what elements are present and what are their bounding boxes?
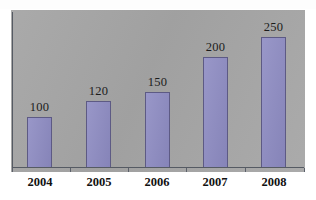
bar-value-label-2008: 250 — [256, 20, 291, 35]
bars-layer: 10020041202005150200620020072502008 — [0, 0, 316, 200]
x-axis-label-2004: 2004 — [22, 175, 58, 190]
bar-chart: 10020041202005150200620020072502008 — [0, 0, 316, 200]
bar-2008 — [261, 37, 286, 167]
bar-value-label-2006: 150 — [140, 75, 175, 90]
bar-value-label-2004: 100 — [22, 100, 57, 115]
x-axis-tick — [245, 168, 246, 172]
bar-value-label-2005: 120 — [81, 84, 116, 99]
x-axis-tick — [128, 168, 129, 172]
x-axis-tick — [70, 168, 71, 172]
x-axis-label-2007: 2007 — [197, 175, 233, 190]
bar-2007 — [203, 57, 228, 167]
x-axis-label-2005: 2005 — [81, 175, 117, 190]
x-axis-tick — [12, 168, 13, 172]
x-axis-label-2006: 2006 — [139, 175, 175, 190]
bar-2006 — [145, 92, 170, 167]
bar-value-label-2007: 200 — [198, 40, 233, 55]
x-axis-tick — [186, 168, 187, 172]
x-axis-label-2008: 2008 — [256, 175, 292, 190]
bar-2005 — [86, 101, 111, 167]
x-axis-tick — [304, 168, 305, 172]
bar-2004 — [27, 117, 52, 167]
